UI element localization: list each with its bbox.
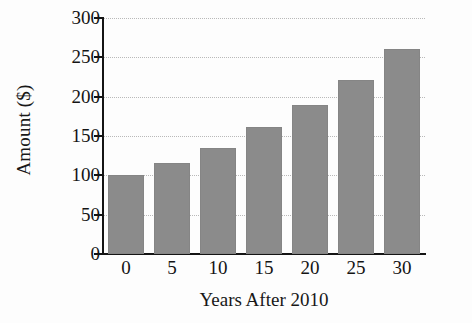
y-axis-tick-mark bbox=[94, 96, 104, 98]
x-axis-tick-label: 10 bbox=[209, 258, 228, 277]
y-axis-tick-mark bbox=[94, 253, 104, 255]
y-axis-tick-mark bbox=[94, 17, 104, 19]
y-axis-tick-mark bbox=[94, 174, 104, 176]
bar bbox=[292, 105, 328, 254]
y-axis-tick-mark bbox=[94, 214, 104, 216]
y-axis-tick-mark bbox=[94, 56, 104, 58]
bar bbox=[384, 49, 420, 254]
x-axis-tick-label: 20 bbox=[301, 258, 320, 277]
y-axis-tick-labels: 050100150200250300 bbox=[44, 0, 100, 323]
y-axis-title-text: Amount ($) bbox=[13, 84, 35, 175]
y-axis-tick-label: 250 bbox=[48, 47, 100, 66]
x-axis-tick-labels: 051015202530 bbox=[103, 258, 425, 286]
y-axis-tick-label: 0 bbox=[48, 244, 100, 263]
y-axis-tick-label: 100 bbox=[48, 165, 100, 184]
x-axis-tick-label: 15 bbox=[255, 258, 274, 277]
gridline bbox=[103, 97, 425, 98]
y-axis-title: Amount ($) bbox=[0, 0, 48, 260]
plot-area bbox=[103, 18, 425, 254]
x-axis-tick-label: 5 bbox=[167, 258, 177, 277]
x-axis-tick-label: 30 bbox=[393, 258, 412, 277]
bar bbox=[338, 80, 374, 254]
gridline bbox=[103, 18, 425, 19]
y-axis-tick-label: 300 bbox=[48, 8, 100, 27]
y-axis-tick-label: 150 bbox=[48, 126, 100, 145]
y-axis-tick-label: 200 bbox=[48, 87, 100, 106]
gridline bbox=[103, 57, 425, 58]
y-axis-tick-mark bbox=[94, 135, 104, 137]
x-axis-tick-label: 0 bbox=[121, 258, 131, 277]
x-axis-title: Years After 2010 bbox=[103, 289, 425, 311]
bar bbox=[200, 148, 236, 254]
bar bbox=[108, 175, 144, 254]
bar bbox=[246, 127, 282, 254]
bar-chart-figure: Amount ($) 050100150200250300 0510152025… bbox=[0, 0, 472, 323]
bar bbox=[154, 163, 190, 254]
y-axis-tick-label: 50 bbox=[48, 205, 100, 224]
x-axis-tick-label: 25 bbox=[347, 258, 366, 277]
